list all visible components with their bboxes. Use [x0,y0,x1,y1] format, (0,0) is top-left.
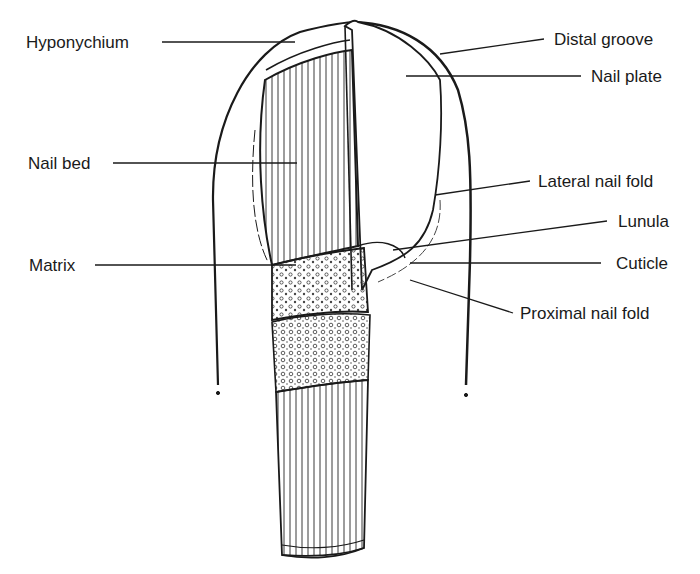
label-lunula: Lunula [618,213,669,230]
label-cuticle: Cuticle [616,255,668,272]
label-distal-groove: Distal groove [554,31,653,48]
nail-bed-region [253,40,358,265]
label-proximal-nail-fold: Proximal nail fold [520,305,649,322]
label-matrix: Matrix [29,257,75,274]
leader-proximal-nail-fold [410,280,513,313]
finger-shaft [276,380,368,558]
label-hyponychium: Hyponychium [26,34,129,51]
label-nail-plate: Nail plate [591,68,662,85]
leader-distal-groove [440,39,544,54]
label-lateral-nail-fold: Lateral nail fold [538,173,653,190]
nail-anatomy-illustration [0,0,700,574]
leader-lateral-nail-fold [435,181,530,195]
label-nail-bed: Nail bed [28,155,90,172]
